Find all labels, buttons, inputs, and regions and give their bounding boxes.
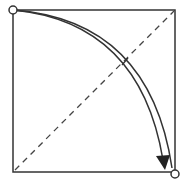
arrowhead-icon: [156, 155, 170, 170]
valley-fold-line: [15, 11, 174, 170]
end-point-circle: [171, 170, 179, 178]
fold-diagram: [0, 0, 186, 183]
fold-arrow-outer-arc: [13, 10, 172, 168]
start-point-circle: [9, 6, 17, 14]
fold-arrow-inner-arc: [13, 10, 163, 160]
